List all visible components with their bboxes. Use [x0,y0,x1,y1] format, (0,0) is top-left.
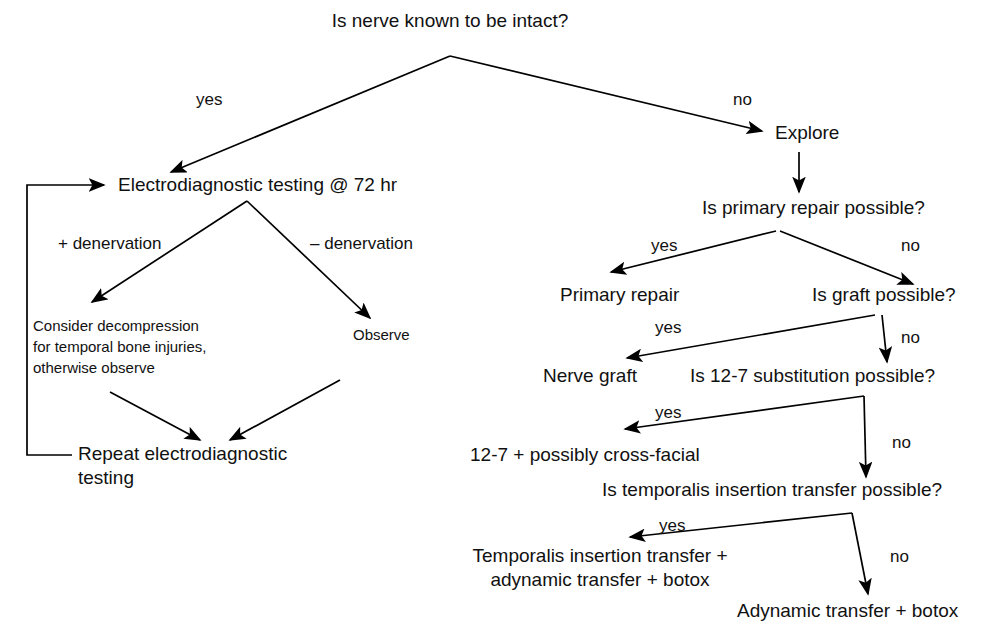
node-line: Is primary repair possible? [702,197,925,218]
flowchart-svg: yesno+ denervation– denervationyesnoyesn… [0,0,996,642]
node-adynamic-transfer: Adynamic transfer + botox [737,600,959,621]
node-line: adynamic transfer + botox [490,569,710,590]
edge-label-primary-no: no [901,236,920,255]
node-line: Temporalis insertion transfer + [472,545,727,566]
node-graft-q: Is graft possible? [812,284,956,305]
edge-label-primary-yes: yes [651,236,677,255]
node-line: Electrodiagnostic testing @ 72 hr [118,174,398,195]
edge-label-temporalis-yes: yes [659,516,685,535]
node-line: Adynamic transfer + botox [737,600,959,621]
node-line: Is 12-7 substitution possible? [690,365,935,386]
connector-temporalis-no [852,513,868,594]
node-line: for temporal bone injuries, [33,338,206,355]
connector-root-no [450,56,762,131]
node-line: Observe [353,326,410,343]
connector-edt-minus [247,201,370,318]
connector-primary-yes [611,231,776,272]
node-cross-facial: 12-7 + possibly cross-facial [470,444,700,465]
node-line: Is temporalis insertion transfer possibl… [602,479,942,500]
node-electrodiagnostic: Electrodiagnostic testing @ 72 hr [118,174,398,195]
edge-label-graft-yes: yes [655,318,681,337]
node-line: Primary repair [560,284,680,305]
flowchart-canvas: yesno+ denervation– denervationyesnoyesn… [0,0,996,642]
connector-substitution-no [864,396,866,477]
edge-label-root-no: no [733,90,752,109]
node-temporalis-transfer: Temporalis insertion transfer +adynamic … [472,545,727,590]
node-layer: Is nerve known to be intact?Electrodiagn… [33,10,959,621]
node-line: Is graft possible? [812,284,956,305]
edge-label-edt-minus: – denervation [310,234,413,253]
connector-observe-to-repeat [230,380,340,440]
node-primary-repair-q: Is primary repair possible? [702,197,925,218]
node-line: testing [78,467,134,488]
node-repeat-testing: Repeat electrodiagnostictesting [78,443,287,488]
node-consider-decompression: Consider decompressionfor temporal bone … [33,317,206,376]
connector-root-yes [171,56,450,172]
node-observe: Observe [353,326,410,343]
node-primary-repair: Primary repair [560,284,680,305]
node-line: Consider decompression [33,317,199,334]
node-explore: Explore [775,122,839,143]
edge-label-edt-plus: + denervation [58,234,162,253]
node-nerve-graft: Nerve graft [543,365,638,386]
connector-primary-no [780,231,913,284]
node-line: otherwise observe [33,359,155,376]
node-temporalis-q: Is temporalis insertion transfer possibl… [602,479,942,500]
edge-label-root-yes: yes [196,90,222,109]
node-substitution-q: Is 12-7 substitution possible? [690,365,935,386]
edge-label-temporalis-no: no [890,547,909,566]
node-line: Nerve graft [543,365,638,386]
edge-label-substitution-no: no [892,433,911,452]
edge-label-graft-no: no [901,328,920,347]
node-line: 12-7 + possibly cross-facial [470,444,700,465]
node-line: Repeat electrodiagnostic [78,443,287,464]
connector-decompression-to-repeat [110,392,200,440]
connector-graft-no [882,315,887,362]
node-line: Explore [775,122,839,143]
edge-label-substitution-yes: yes [655,403,681,422]
node-line: Is nerve known to be intact? [332,10,569,31]
node-root: Is nerve known to be intact? [332,10,569,31]
